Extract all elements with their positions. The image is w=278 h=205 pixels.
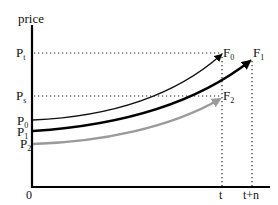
ps-label: Ps <box>16 88 26 105</box>
forward-price-diagram: price Pt Ps P0 P1 P2 F0 F1 F2 0 t t+n <box>0 0 278 205</box>
y-axis-label: price <box>18 11 44 26</box>
pt-label: Pt <box>16 45 26 62</box>
f1-label: F1 <box>253 45 264 62</box>
curve-p0-f0 <box>33 55 221 120</box>
guide-lines <box>34 53 253 186</box>
f0-label: F0 <box>223 45 234 62</box>
p2-label: P2 <box>20 136 31 153</box>
curve-p1-f1 <box>33 61 250 131</box>
origin-label: 0 <box>26 188 32 202</box>
tn-tick-label: t+n <box>243 188 259 202</box>
t-tick-label: t <box>219 188 223 202</box>
f2-label: F2 <box>223 88 234 105</box>
